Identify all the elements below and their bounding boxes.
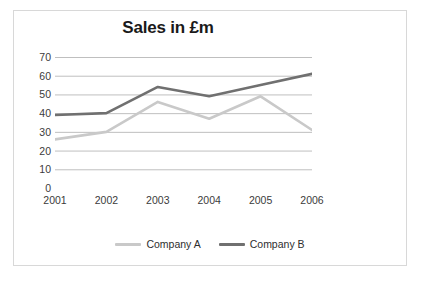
y-axis: 706050403020100 [18,50,51,195]
legend-swatch-company-a [115,243,141,246]
chart-title: Sales in £m [13,18,323,38]
x-axis-tick-label: 2006 [290,193,334,207]
plot-svg [55,57,312,188]
y-axis-tick-label: 40 [18,107,51,119]
y-axis-tick-label: 60 [18,70,51,82]
series-line-company-b [55,74,312,115]
y-axis-tick-label: 30 [18,126,51,138]
y-axis-tick-label: 20 [18,145,51,157]
y-axis-tick-label: 10 [18,163,51,175]
y-axis-tick-label: 50 [18,88,51,100]
chart-screenshot: Sales in £m 706050403020100 200120022003… [0,0,432,282]
gridlines [55,58,312,189]
x-axis: 200120022003200420052006 [55,193,312,211]
legend-item-label: Company B [250,238,305,251]
legend-swatch-company-b [219,243,245,246]
x-axis-tick-label: 2004 [187,193,231,207]
series-line-company-a [55,96,312,139]
x-axis-tick-label: 2005 [239,193,283,207]
x-axis-tick-label: 2003 [136,193,180,207]
series-lines [55,74,312,140]
plot-area [55,57,312,188]
x-axis-tick-label: 2002 [84,193,128,207]
chart-legend: Company ACompany B [13,238,407,251]
legend-item[interactable]: Company A [115,238,200,251]
x-axis-tick-label: 2001 [33,193,77,207]
legend-item[interactable]: Company B [219,238,305,251]
legend-item-label: Company A [146,238,200,251]
y-axis-tick-label: 70 [18,51,51,63]
